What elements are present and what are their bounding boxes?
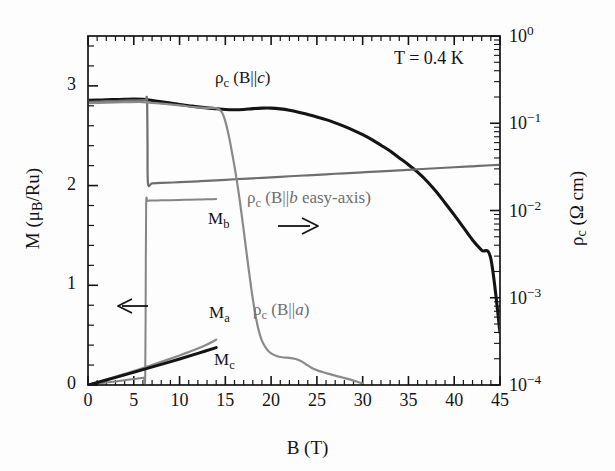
mu-symbol: μ <box>22 211 43 221</box>
m-sub-a: a <box>224 311 230 325</box>
y-right-tick-label: 100 <box>509 23 534 47</box>
log-exponent: −3 <box>527 285 541 300</box>
y-right-tick-label: 10−2 <box>509 198 541 222</box>
y-right-tick-label: 10−3 <box>509 285 541 309</box>
m-sub-c: c <box>229 358 235 372</box>
y-axis-left-title: M (μB/Ru) <box>22 128 47 288</box>
curve-label-M-a: Ma <box>209 303 230 326</box>
axis-pointer-arrows <box>118 218 318 313</box>
log-base: 10 <box>509 114 527 134</box>
rho-close-3: ) <box>304 300 310 319</box>
y-right-title-suffix: (Ω cm) <box>566 171 587 231</box>
rho-close-2: easy-axis) <box>298 188 371 207</box>
data-curves <box>88 97 500 385</box>
curve-label-rho-c-Bparallela: ρc (B||a) <box>253 300 309 323</box>
x-axis-title: B (T) <box>0 437 615 459</box>
curve-label-M-b: Mb <box>208 209 229 232</box>
rho-rest-1: (B|| <box>229 68 257 87</box>
log-exponent: −4 <box>527 372 541 387</box>
curve-mb <box>88 197 216 385</box>
curve-label-rho-c-Bparallelb: ρc (B||b easy-axis) <box>247 188 371 211</box>
y-axis-right-title: ρc (Ω cm) <box>566 128 591 288</box>
log-exponent: 0 <box>527 23 534 38</box>
rho-subscript-c-right: c <box>573 230 589 236</box>
axis-letter-c: c <box>257 68 265 87</box>
temperature-annotation: T = 0.4 K <box>394 48 464 69</box>
log-exponent: −2 <box>527 198 541 213</box>
y-left-tick-label: 0 <box>38 373 76 394</box>
rho-rest-3: (B|| <box>267 300 295 319</box>
figure-panel: 051015202530354045 0123 10010−110−210−31… <box>0 0 615 471</box>
rho-rest-2: (B|| <box>261 188 289 207</box>
axis-letter-b: b <box>289 188 298 207</box>
axis-letter-a: a <box>295 300 304 319</box>
y-left-tick-label: 3 <box>38 74 76 95</box>
mu-subscript-b: B <box>29 202 45 211</box>
rho-symbol-right: ρ <box>566 237 587 246</box>
rho-close-1: ) <box>265 68 271 87</box>
log-base: 10 <box>509 26 527 46</box>
y-right-tick-label: 10−1 <box>509 110 541 134</box>
m-glyph-b: M <box>208 209 223 228</box>
y-left-title-suffix: /Ru) <box>22 168 43 202</box>
log-base: 10 <box>509 201 527 221</box>
curve--c-b-c- <box>88 99 500 332</box>
m-glyph-c: M <box>214 350 229 369</box>
curve-mc <box>88 348 216 385</box>
curve--c-b-a- <box>88 102 363 384</box>
curve-label-M-c: Mc <box>214 350 235 373</box>
m-sub-b: b <box>223 217 229 231</box>
log-exponent: −1 <box>527 110 541 125</box>
m-glyph-a: M <box>209 303 224 322</box>
curve-label-rho-c-Bparallelc: ρc (B||c) <box>215 68 270 91</box>
log-base: 10 <box>509 288 527 308</box>
y-right-tick-label: 10−4 <box>509 372 541 396</box>
y-left-title-text: M ( <box>22 221 43 249</box>
log-base: 10 <box>509 375 527 395</box>
